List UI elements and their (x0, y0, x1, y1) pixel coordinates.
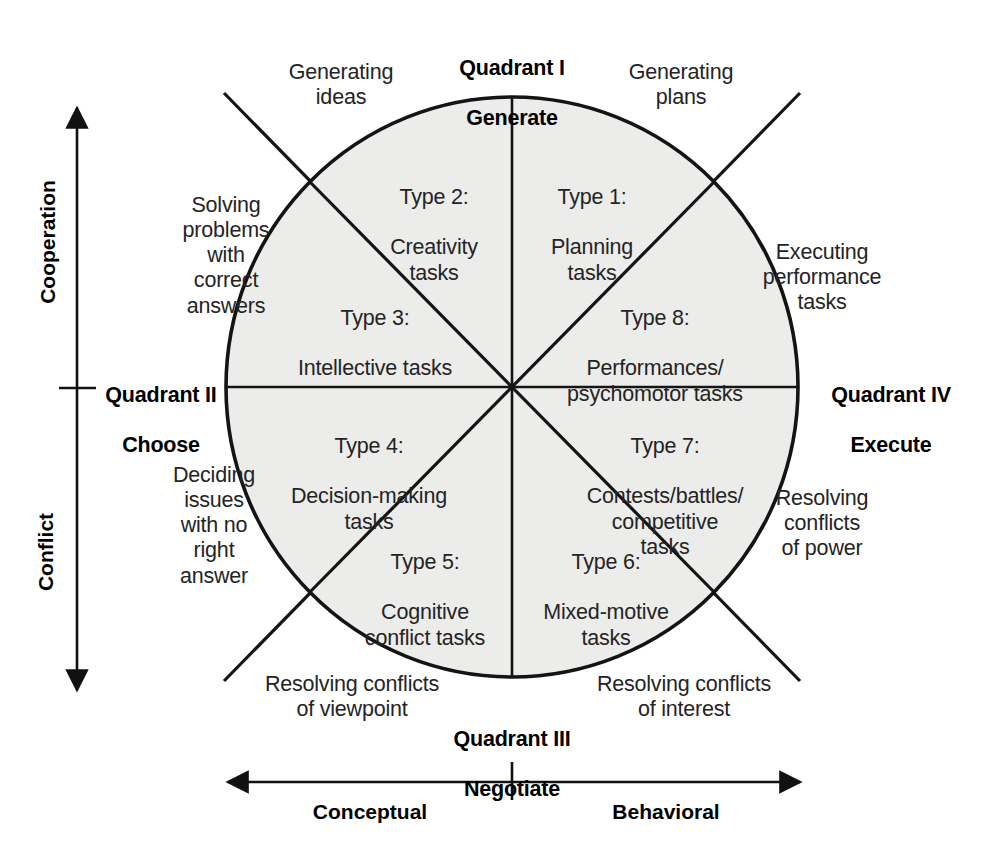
segment-type-1-number: Type 1: (516, 185, 668, 210)
segment-type-8-name: Performances/ psychomotor tasks (524, 356, 786, 406)
segment-type-6-name: Mixed-motive tasks (518, 600, 694, 650)
axis-label-cooperation: Cooperation (36, 152, 60, 332)
quadrant-iii-name: Quadrant III (400, 727, 624, 752)
segment-type-6: Type 6: Mixed-motive tasks (518, 525, 694, 676)
quadrant-iii-verb: Negotiate (400, 777, 624, 802)
segment-type-3-number: Type 3: (250, 306, 500, 331)
segment-type-7-number: Type 7: (548, 434, 782, 459)
outer-label-resolving-viewpoint: Resolving conflicts of viewpoint (216, 672, 488, 722)
quadrant-ii-verb: Choose (86, 433, 236, 458)
outer-label-resolving-interest: Resolving conflicts of interest (548, 672, 820, 722)
segment-type-5: Type 5: Cognitive conflict tasks (338, 525, 512, 676)
quadrant-iv-verb: Execute (806, 433, 976, 458)
segment-type-5-name: Cognitive conflict tasks (338, 600, 512, 650)
segment-type-3-name: Intellective tasks (250, 356, 500, 381)
quadrant-iv-name: Quadrant IV (806, 383, 976, 408)
segment-type-4-number: Type 4: (244, 434, 494, 459)
quadrant-ii-name: Quadrant II (86, 383, 236, 408)
segment-type-2-number: Type 2: (356, 185, 512, 210)
axis-label-conceptual: Conceptual (270, 800, 470, 825)
outer-label-generating-plans: Generating plans (590, 60, 772, 110)
segment-type-3: Type 3: Intellective tasks (250, 281, 500, 407)
segment-type-6-number: Type 6: (518, 550, 694, 575)
axis-label-conflict: Conflict (34, 477, 58, 627)
segment-type-8-number: Type 8: (524, 306, 786, 331)
outer-label-generating-ideas: Generating ideas (252, 60, 430, 110)
diagram-canvas: Quadrant I Generate Quadrant II Choose Q… (0, 0, 983, 853)
quadrant-iv-label: Quadrant IV Execute (806, 358, 976, 484)
segment-type-1-name: Planning tasks (516, 235, 668, 285)
segment-type-2-name: Creativity tasks (356, 235, 512, 285)
segment-type-5-number: Type 5: (338, 550, 512, 575)
axis-label-behavioral: Behavioral (566, 800, 766, 825)
